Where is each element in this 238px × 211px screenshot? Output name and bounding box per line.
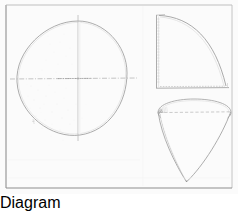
quadrant-baseline — [156, 88, 229, 89]
plate-canvas — [0, 0, 238, 194]
paper-tone — [0, 0, 238, 194]
drawing-plate — [0, 0, 238, 194]
circle-center-point — [77, 77, 79, 79]
